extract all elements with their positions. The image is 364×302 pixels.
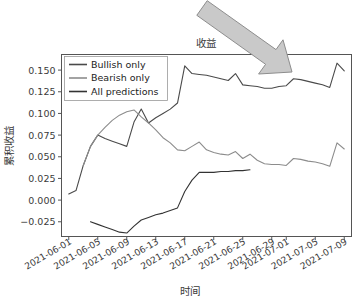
y-axis-ticks: −0.0250.0000.0250.0500.0750.1000.1250.15…: [20, 65, 61, 228]
legend-label: Bearish only: [91, 72, 150, 83]
series-line: [91, 170, 251, 233]
y-tick-label: 0.100: [28, 108, 55, 119]
x-axis-title: 时间: [180, 285, 200, 297]
y-axis-title: 累积收益: [3, 125, 15, 166]
series-line: [83, 110, 344, 166]
y-tick-label: −0.025: [20, 216, 55, 227]
x-axis-ticks: 2021-06-012021-06-052021-06-092021-06-13…: [23, 236, 349, 271]
y-tick-label: 0.075: [28, 130, 55, 141]
y-tick-label: 0.125: [28, 86, 55, 97]
legend-label: All predictions: [91, 86, 158, 97]
chart-legend: Bullish onlyBearish onlyAll predictions: [65, 57, 168, 101]
chart-title: 收益: [196, 37, 217, 49]
y-tick-label: 0.050: [28, 151, 55, 162]
chart-figure: 收益 累积收益 时间 −0.0250.0000.0250.0500.0750.1…: [0, 0, 364, 302]
y-tick-label: 0.000: [28, 195, 55, 206]
chart-canvas: 收益 累积收益 时间 −0.0250.0000.0250.0500.0750.1…: [0, 0, 364, 302]
y-tick-label: 0.025: [28, 173, 55, 184]
y-tick-label: 0.150: [28, 65, 55, 76]
legend-label: Bullish only: [91, 59, 146, 70]
